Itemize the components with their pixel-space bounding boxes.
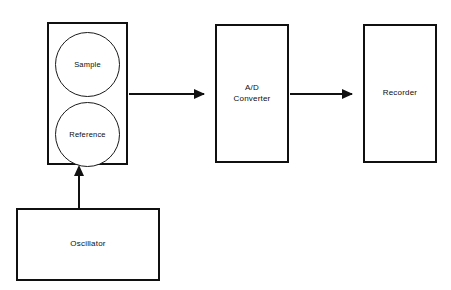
oscillator-block: Oscillator (16, 208, 160, 281)
recorder-block: Recorder (363, 24, 437, 163)
oscillator-label: Oscillator (70, 239, 105, 250)
detector-block: Sample Reference (47, 22, 128, 165)
arrow-ad-converter-to-recorder (290, 93, 352, 95)
ad-converter-label: A/D Converter (234, 83, 271, 105)
reference-cell: Reference (55, 102, 120, 167)
reference-label: Reference (69, 130, 105, 139)
arrow-oscillator-to-detector (78, 176, 80, 208)
block-diagram: Sample Reference A/D Converter Recorder … (0, 0, 451, 290)
recorder-label: Recorder (383, 88, 418, 99)
sample-label: Sample (74, 60, 101, 69)
ad-converter-block: A/D Converter (215, 24, 289, 163)
arrow-detector-to-ad-converter (129, 93, 204, 95)
sample-cell: Sample (55, 32, 120, 97)
